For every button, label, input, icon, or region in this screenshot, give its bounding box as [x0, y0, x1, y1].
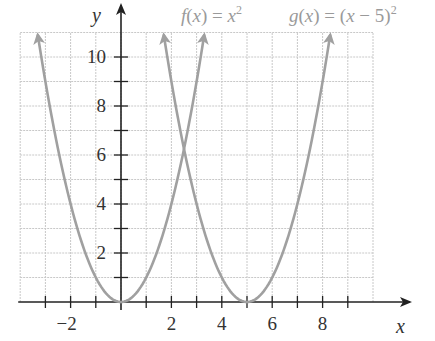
curves	[38, 35, 330, 302]
legend-g: g(x) = (x − 5)2	[289, 3, 397, 27]
y-tick-label: 6	[97, 144, 107, 165]
x-tick-label: 2	[167, 313, 177, 334]
curve-f-right-branch	[121, 35, 204, 302]
legend-f-exponent: 2	[236, 3, 242, 17]
legend-f-eq: ) =	[201, 5, 228, 27]
y-tick-label: 10	[87, 46, 106, 67]
y-tick-label: 2	[97, 242, 107, 263]
chart: −22468246810 y x f(x) = x2 g(x) = (x − 5…	[0, 0, 435, 341]
axes	[18, 5, 410, 310]
legend-g-eq: ) = (	[313, 5, 346, 27]
curve-f-left-branch	[38, 35, 121, 302]
x-tick-label: 8	[318, 313, 328, 334]
legend-g-name: g	[289, 5, 299, 26]
legend-f: f(x) = x2	[181, 3, 242, 27]
x-tick-label: −2	[56, 313, 76, 334]
legend-g-exponent: 2	[391, 3, 397, 17]
x-axis-label: x	[395, 315, 405, 337]
curve-g-left-branch	[164, 35, 247, 302]
grid	[20, 33, 373, 303]
legend-g-minus: − 5)	[355, 5, 391, 27]
y-tick-label: 4	[97, 193, 107, 214]
y-axis-label: y	[90, 4, 101, 27]
curve-g-right-branch	[247, 35, 330, 302]
x-tick-label: 6	[267, 313, 277, 334]
x-tick-label: 4	[217, 313, 227, 334]
y-tick-label: 8	[97, 95, 107, 116]
